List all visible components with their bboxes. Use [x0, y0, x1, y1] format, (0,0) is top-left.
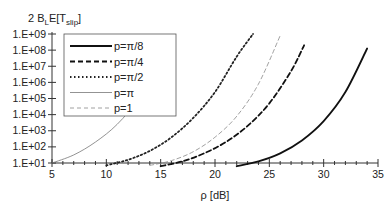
y-tick-label: 1.E+03	[12, 124, 46, 136]
y-tick-label: 1.E+06	[12, 76, 46, 88]
y-axis: 1.E+011.E+021.E+031.E+041.E+051.E+061.E+…	[12, 28, 56, 169]
y-tick-label: 1.E+01	[12, 157, 46, 169]
x-tick-label: 15	[155, 168, 167, 180]
x-tick-label: 35	[372, 168, 384, 180]
y-tick-label: 1.E+02	[12, 140, 46, 152]
y-axis-title: 2 BLE[Tslip]	[28, 12, 81, 27]
svg-text:2 BLE[Tslip]: 2 BLE[Tslip]	[28, 12, 81, 27]
y-tick-label: 1.E+05	[12, 92, 46, 104]
x-tick-label: 25	[263, 168, 275, 180]
x-tick-label: 20	[209, 168, 221, 180]
y-tick-label: 1.E+09	[12, 28, 46, 40]
legend-label: p=1	[114, 102, 133, 114]
legend: p=π/8p=π/4p=π/2p=πp=1	[64, 34, 176, 116]
legend-label: p=π/8	[114, 40, 143, 52]
legend-label: p=π	[114, 87, 135, 99]
legend-label: p=π/2	[114, 71, 143, 83]
x-tick-label: 10	[100, 168, 112, 180]
chart: 2 BLE[Tslip] 1.E+011.E+021.E+031.E+041.E…	[0, 0, 392, 207]
x-tick-label: 5	[49, 168, 55, 180]
legend-label: p=π/4	[114, 56, 143, 68]
x-axis: 5101520253035	[49, 159, 384, 180]
series-line	[237, 49, 367, 167]
y-tick-label: 1.E+07	[12, 60, 46, 72]
x-axis-title: ρ [dB]	[201, 189, 230, 201]
y-tick-label: 1.E+08	[12, 44, 46, 56]
x-tick-label: 30	[318, 168, 330, 180]
y-tick-label: 1.E+04	[12, 108, 46, 120]
